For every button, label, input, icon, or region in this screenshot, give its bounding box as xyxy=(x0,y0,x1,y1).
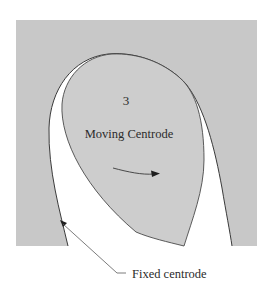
moving-centrode-label: Moving Centrode xyxy=(85,127,174,141)
centrode-diagram: 3 Moving Centrode Fixed centrode xyxy=(0,0,270,294)
body-number-label: 3 xyxy=(123,93,130,108)
fixed-centrode-label: Fixed centrode xyxy=(132,267,207,281)
